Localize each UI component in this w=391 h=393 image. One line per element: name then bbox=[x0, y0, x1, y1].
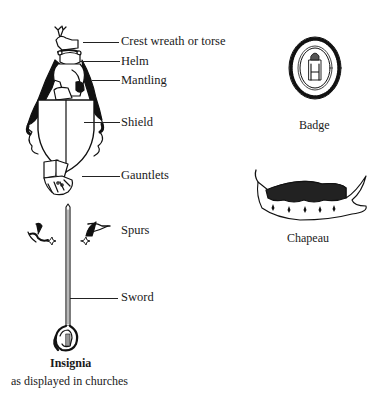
label-shield: Shield bbox=[121, 116, 153, 128]
gauntlets-icon bbox=[44, 160, 73, 195]
label-mantling: Mantling bbox=[121, 74, 167, 86]
label-gauntlets: Gauntlets bbox=[121, 169, 169, 181]
leader-line-gauntlets bbox=[82, 176, 120, 177]
leader-line-sword bbox=[70, 298, 118, 299]
spur-left-icon bbox=[28, 223, 56, 245]
stag-crest-icon bbox=[55, 26, 78, 50]
leader-line-helm bbox=[80, 61, 120, 62]
leader-line-mantling bbox=[92, 80, 120, 81]
chapeau-icon bbox=[255, 170, 366, 220]
label-spurs: Spurs bbox=[121, 224, 149, 236]
caption-badge: Badge bbox=[299, 118, 330, 133]
caption-chapeau: Chapeau bbox=[287, 231, 329, 246]
label-sword: Sword bbox=[121, 291, 154, 303]
diagram-subtitle: as displayed in churches bbox=[11, 374, 128, 389]
label-crest-wreath: Crest wreath or torse bbox=[121, 35, 225, 47]
leader-line-shield bbox=[84, 122, 120, 123]
badge-icon bbox=[289, 37, 341, 99]
diagram-title: Insignia bbox=[50, 356, 91, 371]
insignia-illustration bbox=[0, 0, 391, 393]
spur-right-icon bbox=[81, 222, 110, 245]
label-helm: Helm bbox=[121, 55, 149, 67]
sword-icon bbox=[54, 204, 77, 350]
leader-line-crest bbox=[83, 42, 119, 43]
